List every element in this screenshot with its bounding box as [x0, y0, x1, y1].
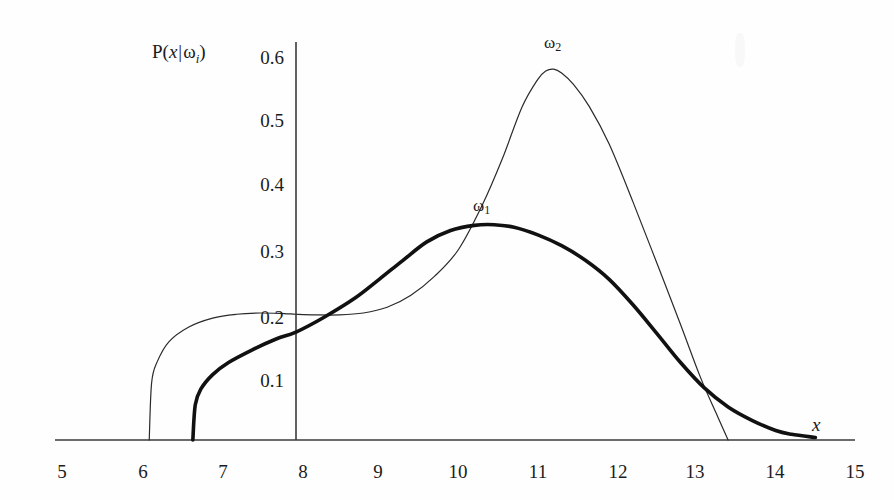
x-tick-label-15: 15	[835, 461, 875, 483]
curve-label-omega1-sub: 1	[484, 203, 490, 217]
y-tick-label-0.1: 0.1	[238, 370, 284, 392]
y-axis-title-paren: )	[199, 41, 205, 62]
curve-omega1	[193, 225, 816, 440]
curve-label-omega2-sub: 2	[555, 40, 561, 54]
y-axis-title-omega: ω	[183, 41, 196, 62]
curve-omega2	[149, 69, 728, 440]
x-tick-label-14: 14	[755, 461, 795, 483]
y-tick-label-0.2: 0.2	[238, 307, 284, 329]
x-tick-label-7: 7	[203, 461, 243, 483]
curve-label-omega2: ω2	[544, 33, 561, 53]
y-tick-label-0.4: 0.4	[238, 174, 284, 196]
y-tick-label-0.6: 0.6	[238, 47, 284, 69]
x-tick-label-12: 12	[598, 461, 638, 483]
y-tick-label-0.5: 0.5	[238, 110, 284, 132]
y-axis-title-p: P(	[152, 41, 169, 62]
figure-canvas: P(x|ωi) x 0.6 0.5 0.4 0.3 0.2 0.1 5 6 7 …	[0, 0, 894, 500]
curve-label-omega1-glyph: ω	[473, 196, 484, 215]
x-tick-label-9: 9	[358, 461, 398, 483]
x-tick-label-10: 10	[438, 461, 478, 483]
y-axis-title: P(x|ωi)	[152, 41, 206, 67]
curve-label-omega2-glyph: ω	[544, 33, 555, 52]
chart-plot-area	[0, 0, 894, 500]
axis-lines	[55, 42, 855, 440]
x-tick-label-5: 5	[42, 461, 82, 483]
x-tick-label-11: 11	[518, 461, 558, 483]
y-tick-label-0.3: 0.3	[238, 241, 284, 263]
x-tick-label-13: 13	[675, 461, 715, 483]
x-axis-title: x	[812, 414, 820, 436]
x-tick-label-6: 6	[123, 461, 163, 483]
curve-label-omega1: ω1	[473, 196, 490, 216]
x-tick-label-8: 8	[283, 461, 323, 483]
